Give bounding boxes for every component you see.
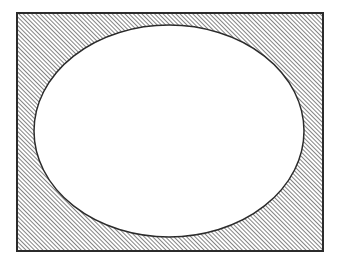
inscribed-ellipse	[34, 25, 304, 237]
figure-canvas	[0, 0, 339, 265]
diagram-svg	[0, 0, 339, 265]
